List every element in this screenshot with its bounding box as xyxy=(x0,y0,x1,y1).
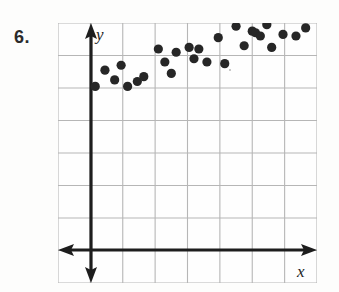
data-point xyxy=(231,23,240,31)
data-point xyxy=(256,31,265,40)
data-point xyxy=(262,23,271,29)
data-point xyxy=(91,82,100,91)
data-point xyxy=(202,57,211,66)
scatter-plot-figure xyxy=(58,23,317,283)
data-point xyxy=(278,30,287,39)
data-point xyxy=(154,44,163,53)
problem-number: 6. xyxy=(14,27,30,48)
data-point xyxy=(185,43,194,52)
data-point xyxy=(100,66,109,75)
y-axis-label: y xyxy=(96,25,104,45)
data-point xyxy=(123,82,132,91)
data-point xyxy=(301,23,310,32)
data-point xyxy=(220,59,229,68)
data-point xyxy=(214,33,223,42)
scan-speck xyxy=(229,69,231,71)
data-point xyxy=(189,54,198,63)
data-point xyxy=(267,43,276,52)
data-point xyxy=(240,41,249,50)
data-point xyxy=(110,75,119,84)
data-point xyxy=(194,44,203,53)
worksheet-page: 6. y x xyxy=(0,0,339,292)
data-point xyxy=(167,69,176,78)
data-point xyxy=(291,31,300,40)
data-point xyxy=(172,48,181,57)
data-point xyxy=(117,61,126,70)
x-axis-label: x xyxy=(297,262,305,282)
data-point xyxy=(160,57,169,66)
data-points xyxy=(58,23,317,283)
data-point xyxy=(139,72,148,81)
